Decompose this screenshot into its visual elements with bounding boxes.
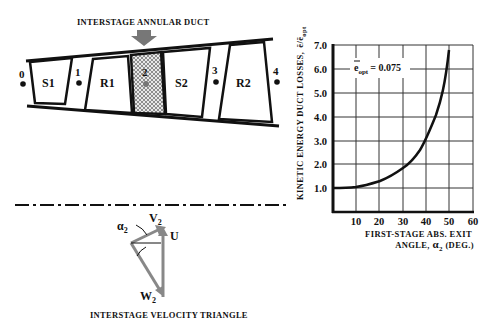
station-label-4: 4: [273, 65, 279, 77]
y-tick-3: 3.0: [314, 136, 327, 147]
y-tick-6: 6.0: [314, 64, 327, 75]
velocity-triangle-caption: INTERSTAGE VELOCITY TRIANGLE: [90, 310, 248, 320]
x-tick-10: 10: [351, 216, 362, 227]
x-tick-50: 50: [444, 216, 455, 227]
y-tick-5: 5.0: [314, 88, 327, 99]
y-tick-2: 2.0: [314, 159, 327, 170]
station-label-2: 2: [142, 66, 148, 78]
station-dot-4: [274, 79, 280, 85]
x-tick-20: 20: [374, 216, 385, 227]
station-label-0: 0: [19, 68, 25, 80]
station-label-3: 3: [212, 64, 218, 76]
y-tick-4: 4.0: [314, 112, 327, 123]
y-axis-label: KINETIC ENERGY DUCT LOSSES,ē/ēopt: [295, 26, 307, 200]
loss-chart: eopt= 0.075 1.0 2.0 3.0 4.0 5.0 6.0 7.0 …: [295, 26, 478, 253]
station-dot-2: [143, 81, 149, 87]
velocity-triangle: α2 V2 U W2 INTERSTAGE VELOCITY TRIANGLE: [90, 211, 248, 320]
y-tick-7: 7.0: [314, 40, 327, 51]
stage-label-r2: R2: [236, 76, 251, 90]
alpha2-label: α2: [117, 219, 128, 235]
arrow-down-icon: [131, 30, 157, 46]
x-axis-label-line1: FIRST-STAGE ABS. EXIT: [365, 229, 472, 239]
w2-label: W2: [140, 289, 156, 305]
angle-pointer-upper: [136, 225, 147, 235]
figure-canvas: INTERSTAGE ANNULAR DUCT S1 R1 S2 R2 0 1: [0, 0, 489, 324]
w2-vector: [131, 243, 161, 292]
stage-label-s1: S1: [42, 76, 55, 90]
stage-label-s2: S2: [175, 76, 188, 90]
v2-label: V2: [149, 211, 162, 227]
x-tick-60: 60: [468, 216, 479, 227]
duct-title: INTERSTAGE ANNULAR DUCT: [77, 17, 209, 27]
u-label: U: [170, 229, 179, 243]
station-dot-0: [20, 81, 26, 87]
x-tick-40: 40: [421, 216, 432, 227]
stage-label-r1: R1: [100, 76, 115, 90]
x-axis-label-line2: ANGLE, α2 (DEG.): [395, 238, 474, 253]
compressor-duct-diagram: INTERSTAGE ANNULAR DUCT S1 R1 S2 R2 0 1: [19, 17, 280, 126]
x-tick-30: 30: [398, 216, 409, 227]
y-tick-1: 1.0: [314, 183, 327, 194]
station-dot-1: [76, 80, 82, 86]
station-label-1: 1: [75, 66, 81, 78]
station-dot-3: [213, 79, 219, 85]
